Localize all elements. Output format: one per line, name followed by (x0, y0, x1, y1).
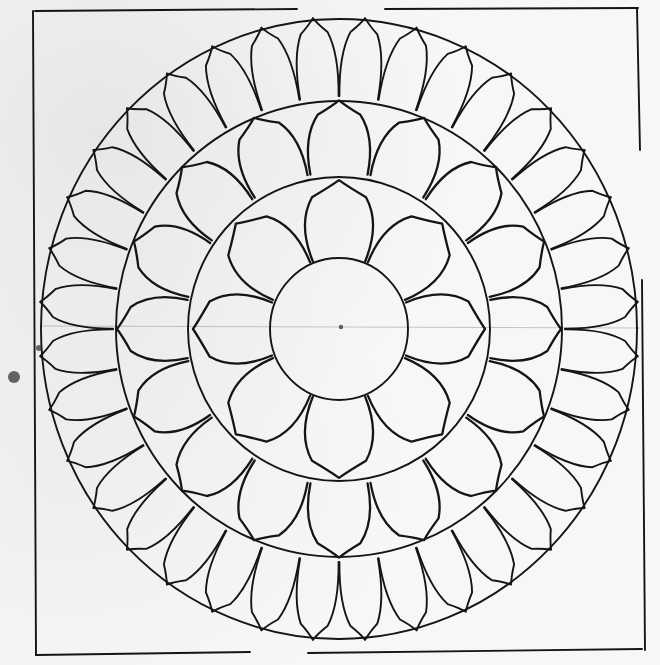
petal (67, 409, 143, 467)
frame-edge (642, 280, 645, 650)
lotus-mandala-drawing (0, 0, 660, 665)
sketch-canvas (0, 0, 660, 665)
petal (297, 18, 339, 100)
petal (308, 100, 370, 174)
petal (468, 361, 544, 432)
petal (127, 479, 193, 550)
petal (305, 180, 373, 261)
inner-ring-circle (188, 177, 490, 481)
petal (406, 294, 485, 363)
petal (417, 46, 472, 127)
petal (371, 118, 440, 198)
petal (251, 28, 299, 110)
petal (339, 18, 381, 100)
petal (308, 484, 370, 558)
petal (177, 418, 253, 496)
petal (535, 409, 611, 467)
frame-edge (36, 652, 250, 655)
petal (49, 238, 126, 288)
petal (562, 329, 638, 372)
frame-edge (33, 11, 36, 655)
petal (40, 329, 116, 372)
petal (512, 147, 584, 212)
petal (368, 216, 450, 300)
middle-lotus-petals (117, 100, 561, 557)
concentric-circles (41, 19, 637, 639)
inner-lotus-petals (193, 180, 485, 478)
petal (485, 479, 551, 550)
petal (228, 358, 310, 442)
frame-edge (637, 8, 640, 150)
petal (468, 226, 544, 297)
petal (371, 461, 440, 541)
petal (490, 297, 561, 361)
petal (93, 147, 165, 212)
petal (512, 446, 584, 511)
outer-ring-circle (41, 19, 637, 639)
petal (426, 418, 502, 496)
petal (297, 558, 339, 640)
petal (562, 285, 638, 328)
petal (552, 370, 629, 420)
petal (485, 108, 551, 179)
petal (552, 238, 629, 288)
middle-ring-circle (116, 101, 562, 557)
petal (379, 28, 427, 110)
petal (67, 191, 143, 249)
petal (93, 446, 165, 511)
petal (127, 108, 193, 179)
petal (417, 531, 472, 612)
petal (49, 370, 126, 420)
petal (368, 358, 450, 442)
petal (177, 162, 253, 240)
petal (206, 531, 261, 612)
petal (206, 46, 261, 127)
ink-smudge (8, 371, 20, 383)
petal (117, 297, 188, 361)
petal (193, 294, 272, 363)
petal (535, 191, 611, 249)
petal (228, 216, 310, 300)
center-point-mark (339, 325, 343, 329)
petal (426, 162, 502, 240)
ink-smudge (36, 345, 42, 351)
petal (238, 118, 307, 198)
petal (238, 461, 307, 541)
center-disc (270, 258, 408, 400)
frame-edge (308, 649, 642, 653)
petal (134, 226, 210, 297)
petal (134, 361, 210, 432)
frame-edge (385, 8, 638, 9)
petal (305, 397, 373, 478)
outer-lotus-petals (40, 18, 638, 640)
ink-smudges (8, 325, 343, 383)
petal (339, 558, 381, 640)
petal-rings (40, 18, 638, 640)
petal (251, 548, 299, 630)
frame-edge (35, 9, 297, 11)
petal (379, 548, 427, 630)
petal (40, 285, 116, 328)
